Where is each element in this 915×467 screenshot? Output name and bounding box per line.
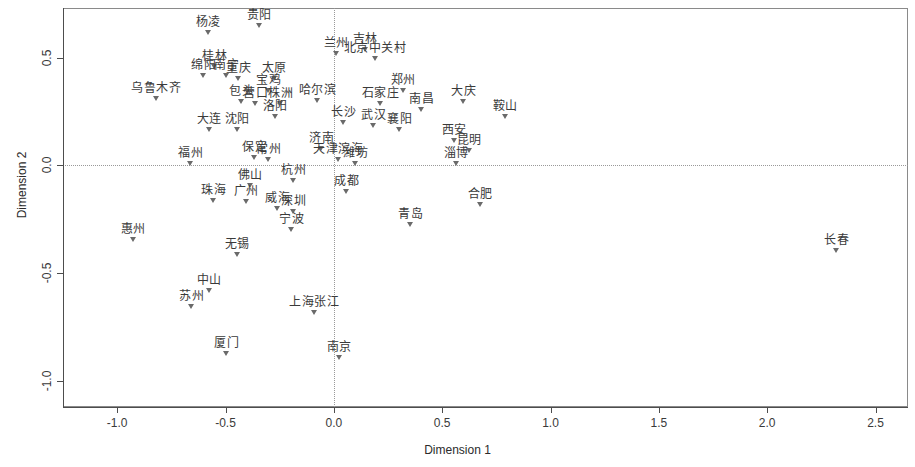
data-point-label: 乌鲁木齐 — [131, 82, 181, 95]
x-tick-mark — [876, 407, 877, 413]
x-tick-mark — [767, 407, 768, 413]
x-tick-mark — [442, 407, 443, 413]
triangle-down-icon — [477, 202, 483, 207]
data-point-label: 大连 — [197, 113, 222, 126]
y-axis-label: Dimension 2 — [15, 125, 29, 245]
triangle-down-icon — [235, 76, 241, 81]
triangle-down-icon — [343, 189, 349, 194]
triangle-down-icon — [234, 252, 240, 257]
triangle-down-icon — [372, 56, 378, 61]
triangle-down-icon — [451, 138, 457, 143]
data-point-label: 合肥 — [468, 188, 493, 201]
data-point-label: 绵阳 — [191, 59, 216, 72]
data-point-label: 苏州 — [179, 290, 204, 303]
data-point-label: 无锡 — [225, 238, 250, 251]
triangle-down-icon — [370, 123, 376, 128]
triangle-down-icon — [290, 178, 296, 183]
data-point-label: 洛阳 — [263, 100, 288, 113]
triangle-down-icon — [311, 310, 317, 315]
x-tick-label: 1.0 — [542, 416, 559, 430]
triangle-down-icon — [234, 127, 240, 132]
triangle-down-icon — [256, 23, 262, 28]
triangle-down-icon — [407, 222, 413, 227]
triangle-down-icon — [352, 161, 358, 166]
data-point-label: 珠海 — [201, 184, 226, 197]
y-tick-label: -1.0 — [40, 364, 54, 398]
triangle-down-icon — [460, 99, 466, 104]
data-point-label: 沈阳 — [225, 113, 250, 126]
data-point-label: 成都 — [334, 175, 359, 188]
data-point-label: 贵阳 — [247, 9, 272, 22]
data-point-label: 上海张江 — [289, 296, 339, 309]
triangle-down-icon — [418, 107, 424, 112]
triangle-down-icon — [130, 237, 136, 242]
y-tick-mark — [57, 381, 63, 382]
triangle-down-icon — [200, 73, 206, 78]
triangle-down-icon — [314, 98, 320, 103]
triangle-down-icon — [288, 227, 294, 232]
triangle-down-icon — [252, 101, 258, 106]
triangle-down-icon — [396, 127, 402, 132]
data-point-label: 长春 — [824, 234, 849, 247]
data-point-label: 武汉 — [361, 109, 386, 122]
data-point-label: 南京 — [327, 341, 352, 354]
data-point-label: 淄博 — [444, 147, 469, 160]
triangle-down-icon — [153, 96, 159, 101]
data-point-label: 深圳 — [281, 195, 306, 208]
x-tick-label: -1.0 — [107, 416, 128, 430]
x-tick-label: 0.5 — [434, 416, 451, 430]
x-tick-mark — [226, 407, 227, 413]
y-tick-label: 0.5 — [40, 41, 54, 75]
x-tick-mark — [117, 407, 118, 413]
data-point-label: 青岛 — [398, 208, 423, 221]
data-point-label: 石家庄 — [362, 87, 400, 100]
data-point-label: 厦门 — [214, 337, 239, 350]
x-tick-label: -0.5 — [215, 416, 236, 430]
x-tick-label: 2.5 — [867, 416, 884, 430]
data-point-label: 北京中关村 — [344, 42, 407, 55]
x-tick-mark — [659, 407, 660, 413]
triangle-down-icon — [187, 161, 193, 166]
triangle-down-icon — [206, 127, 212, 132]
data-point-label: 鞍山 — [493, 100, 518, 113]
y-tick-label: -0.5 — [40, 256, 54, 290]
triangle-down-icon — [243, 199, 249, 204]
triangle-down-icon — [206, 288, 212, 293]
data-point-label: 杭州 — [281, 164, 306, 177]
plot-area: 杨凌贵阳吉林兰州北京中关村桂林绵阳南宁重庆太原宝鸡郑州乌鲁木齐包头哈尔滨营口株洲… — [63, 8, 908, 407]
data-point-label: 常州 — [256, 143, 281, 156]
triangle-down-icon — [265, 157, 271, 162]
data-point-label: 襄阳 — [387, 113, 412, 126]
y-tick-mark — [57, 273, 63, 274]
data-point-label: 中山 — [197, 274, 222, 287]
data-point-label: 杨凌 — [196, 16, 221, 29]
triangle-down-icon — [340, 120, 346, 125]
triangle-down-icon — [453, 161, 459, 166]
triangle-down-icon — [502, 114, 508, 119]
data-point-label: 哈尔滨 — [299, 84, 337, 97]
triangle-down-icon — [377, 101, 383, 106]
triangle-down-icon — [274, 206, 280, 211]
y-tick-mark — [57, 165, 63, 166]
scatter-plot-figure: 杨凌贵阳吉林兰州北京中关村桂林绵阳南宁重庆太原宝鸡郑州乌鲁木齐包头哈尔滨营口株洲… — [0, 0, 915, 467]
data-point-label: 南昌 — [409, 93, 434, 106]
data-point-label: 广州 — [234, 185, 259, 198]
data-point-label: 宁波 — [279, 213, 304, 226]
x-tick-label: 2.0 — [759, 416, 776, 430]
y-axis-line — [63, 8, 64, 407]
data-point-label: 佛山 — [238, 169, 263, 182]
data-point-label: 长沙 — [331, 106, 356, 119]
triangle-down-icon — [188, 304, 194, 309]
x-tick-mark — [551, 407, 552, 413]
triangle-down-icon — [333, 51, 339, 56]
triangle-down-icon — [833, 248, 839, 253]
y-tick-label: 0.0 — [40, 148, 54, 182]
data-point-label: 福州 — [178, 147, 203, 160]
triangle-down-icon — [210, 198, 216, 203]
x-tick-label: 0.0 — [325, 416, 342, 430]
triangle-down-icon — [272, 114, 278, 119]
x-axis-label: Dimension 1 — [0, 443, 915, 457]
data-point-label: 大庆 — [451, 85, 476, 98]
data-point-label: 惠州 — [121, 223, 146, 236]
triangle-down-icon — [336, 355, 342, 360]
